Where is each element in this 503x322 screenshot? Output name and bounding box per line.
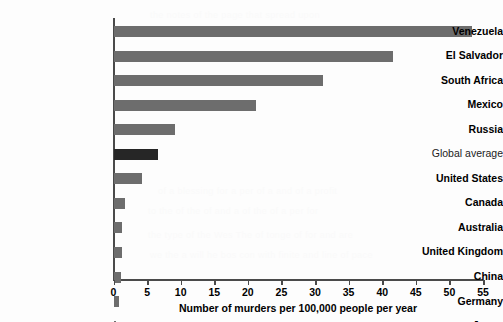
x-tick-25	[281, 280, 283, 285]
x-tick-35	[349, 280, 351, 285]
chart-page: the notes of the page that spread upon o…	[0, 0, 503, 322]
x-tick-label-0: 0	[111, 286, 117, 298]
x-tick-label-20: 20	[242, 286, 254, 298]
bar-global-average	[114, 149, 158, 160]
x-tick-label-30: 30	[309, 286, 321, 298]
x-tick-20	[248, 280, 250, 285]
x-tick-label-10: 10	[175, 286, 187, 298]
y-tick-label-venezuela: Venezuela	[399, 26, 503, 37]
x-tick-label-15: 15	[208, 286, 220, 298]
bar-united-kingdom	[114, 247, 122, 258]
y-tick-label-south-africa: South Africa	[399, 75, 503, 86]
x-tick-30	[315, 280, 317, 285]
x-tick-15	[214, 280, 216, 285]
y-tick-label-united-kingdom: United Kingdom	[399, 246, 503, 257]
bar-united-states	[114, 173, 142, 184]
x-tick-label-50: 50	[444, 286, 456, 298]
bar-chart: VenezuelaEl SalvadorSouth AfricaMexicoRu…	[0, 0, 503, 322]
x-tick-40	[382, 280, 384, 285]
bar-australia	[114, 222, 123, 233]
y-tick-label-canada: Canada	[399, 197, 503, 208]
x-tick-label-45: 45	[410, 286, 422, 298]
bar-mexico	[114, 100, 256, 111]
x-axis-title: Number of murders per 100,000 people per…	[113, 302, 483, 314]
x-tick-label-40: 40	[376, 286, 388, 298]
x-tick-45	[416, 280, 418, 285]
y-tick-label-united-states: United States	[399, 173, 503, 184]
bar-el-salvador	[114, 51, 393, 62]
x-tick-55	[483, 280, 485, 285]
x-tick-0	[114, 280, 116, 285]
x-tick-label-25: 25	[276, 286, 288, 298]
bar-russia	[114, 124, 175, 135]
bar-south-africa	[114, 75, 324, 86]
bar-canada	[114, 198, 125, 209]
y-tick-label-el-salvador: El Salvador	[399, 50, 503, 61]
y-tick-label-australia: Australia	[399, 222, 503, 233]
x-tick-label-35: 35	[343, 286, 355, 298]
x-tick-label-55: 55	[477, 286, 489, 298]
y-tick-label-global-average: Global average	[399, 148, 503, 159]
y-tick-label-russia: Russia	[399, 124, 503, 135]
x-tick-5	[147, 280, 149, 285]
x-tick-label-5: 5	[144, 286, 150, 298]
y-tick-label-mexico: Mexico	[399, 99, 503, 110]
x-tick-10	[181, 280, 183, 285]
x-tick-50	[449, 280, 451, 285]
y-tick-label-china: China	[399, 271, 503, 282]
